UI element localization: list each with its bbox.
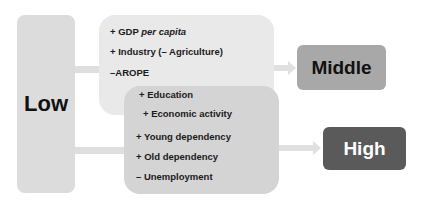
middle-label: Middle <box>311 57 371 79</box>
connector-low-to-middle-group <box>75 66 101 73</box>
factor-young-dependency: + Young dependency <box>136 131 231 142</box>
arrow-to-high <box>279 145 313 151</box>
middle-box: Middle <box>297 45 386 90</box>
factor-old-dependency: + Old dependency <box>136 151 218 162</box>
factor-economic-activity: + Economic activity <box>143 108 232 119</box>
high-label: High <box>343 138 385 160</box>
low-label: Low <box>24 91 68 117</box>
high-box: High <box>323 127 406 170</box>
factor-arope: –AROPE <box>110 67 149 78</box>
arrow-to-middle <box>274 65 288 71</box>
factor-unemployment: – Unemployment <box>136 171 213 182</box>
high-factors-group: + Education + Economic activity + Young … <box>124 86 279 194</box>
factor-education: + Education <box>139 89 193 100</box>
low-box: Low <box>17 15 75 193</box>
factor-industry: + Industry (– Agriculture) <box>110 46 223 57</box>
factor-gdp: + GDP per capita <box>110 26 186 37</box>
connector-low-to-high-group <box>75 147 126 154</box>
